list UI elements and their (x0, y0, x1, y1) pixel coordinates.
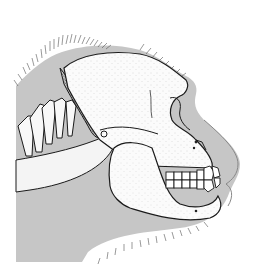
illustration (0, 0, 256, 268)
ape-skull-drawing (0, 0, 256, 268)
